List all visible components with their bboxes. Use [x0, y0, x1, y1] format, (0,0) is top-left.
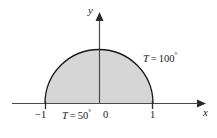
- semicircle-temperature-figure: y x −1 0 1 T=50° T=100°: [0, 0, 217, 138]
- y-axis-label: y: [88, 5, 93, 16]
- t50-equals: =: [70, 110, 76, 121]
- t100-value: 100: [159, 53, 175, 64]
- y-axis-arrowhead: [96, 12, 104, 21]
- arc-edge-temperature-label: T=100°: [143, 52, 177, 64]
- t100-degree: °: [175, 51, 178, 59]
- t50-degree: °: [88, 108, 91, 116]
- x-tick-label-minus-one: −1: [35, 110, 46, 121]
- t50-value: 50: [78, 110, 89, 121]
- origin-label: 0: [103, 110, 108, 121]
- x-axis-label: x: [203, 107, 208, 118]
- flat-edge-temperature-label: T=50°: [62, 109, 91, 121]
- figure-canvas: [0, 0, 217, 138]
- t100-symbol: T: [143, 53, 149, 64]
- t50-symbol: T: [62, 110, 68, 121]
- t100-equals: =: [151, 53, 157, 64]
- x-tick-label-one: 1: [150, 110, 155, 121]
